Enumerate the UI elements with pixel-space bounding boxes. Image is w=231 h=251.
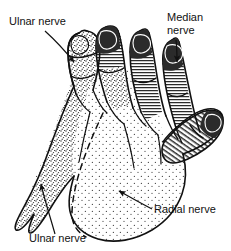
- hand-nerve-diagram: Ulnar nerve Median nerve Radial nerve Ul…: [0, 0, 231, 251]
- label-median-nerve-line1: Median: [167, 11, 203, 23]
- label-ulnar-nerve-top: Ulnar nerve: [9, 15, 66, 27]
- label-radial-nerve: Radial nerve: [154, 203, 216, 215]
- label-median-nerve-line2: nerve: [167, 24, 195, 36]
- label-ulnar-nerve-bottom: Ulnar nerve: [29, 232, 86, 244]
